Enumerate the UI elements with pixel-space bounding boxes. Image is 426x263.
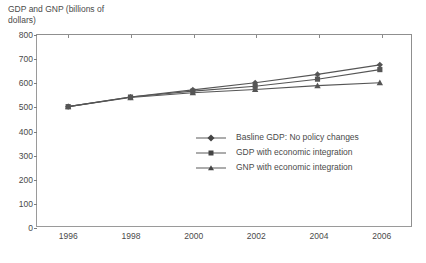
y-axis-tick-label: 100 — [19, 200, 33, 209]
data-point-square — [315, 77, 320, 82]
y-axis-tick-label: 800 — [19, 31, 33, 40]
legend-marker-triangle-icon — [196, 163, 226, 173]
x-axis-tick-label: 2000 — [184, 232, 203, 241]
chart-container: GDP and GNP (billions of dollars) 010020… — [0, 0, 426, 263]
y-axis-tick-mark — [34, 59, 37, 60]
data-point-square — [377, 67, 382, 72]
y-axis-tick-mark — [34, 107, 37, 108]
chart-legend: Basline GDP: No policy changes GDP with … — [196, 130, 359, 175]
x-axis-tick-mark — [256, 35, 257, 38]
series-line — [68, 70, 380, 107]
y-axis-tick-label: 200 — [19, 176, 33, 185]
y-axis-tick-mark — [34, 35, 37, 36]
x-axis-tick-label: 2006 — [372, 232, 391, 241]
y-axis-tick-mark — [34, 204, 37, 205]
x-axis-tick-label: 2004 — [310, 232, 329, 241]
x-axis-tick-mark — [194, 35, 195, 38]
legend-item: GNP with economic integration — [196, 160, 359, 175]
legend-label: GNP with economic integration — [236, 163, 353, 172]
y-axis-tick-label: 400 — [19, 127, 33, 136]
chart-axis-title: GDP and GNP (billions of dollars) — [8, 4, 158, 26]
chart-title-line-1: GDP and GNP (billions of — [8, 4, 158, 15]
y-axis-tick-mark — [34, 132, 37, 133]
legend-label: GDP with economic integration — [236, 148, 353, 157]
data-point-diamond — [377, 62, 383, 68]
data-point-diamond — [314, 71, 320, 77]
chart-title-line-2: dollars) — [8, 15, 158, 26]
y-axis-tick-label: 500 — [19, 103, 33, 112]
x-axis-tick-label: 1996 — [59, 232, 78, 241]
y-axis-tick-mark — [34, 83, 37, 84]
x-axis-tick-mark — [131, 35, 132, 38]
y-axis-tick-mark — [34, 228, 37, 229]
y-axis-tick-mark — [34, 156, 37, 157]
legend-marker-diamond-icon — [196, 133, 226, 143]
y-axis-tick-label: 0 — [28, 224, 33, 233]
y-axis-tick-mark — [34, 180, 37, 181]
y-axis-tick-label: 700 — [19, 55, 33, 64]
x-axis-tick-mark — [319, 35, 320, 38]
legend-item: Basline GDP: No policy changes — [196, 130, 359, 145]
legend-item: GDP with economic integration — [196, 145, 359, 160]
x-axis-tick-label: 1998 — [122, 232, 141, 241]
y-axis-tick-label: 300 — [19, 151, 33, 160]
x-axis-tick-mark — [68, 35, 69, 38]
x-axis-tick-label: 2002 — [247, 232, 266, 241]
x-axis-tick-mark — [382, 35, 383, 38]
legend-label: Basline GDP: No policy changes — [236, 133, 359, 142]
legend-marker-square-icon — [196, 148, 226, 158]
y-axis-tick-label: 600 — [19, 79, 33, 88]
